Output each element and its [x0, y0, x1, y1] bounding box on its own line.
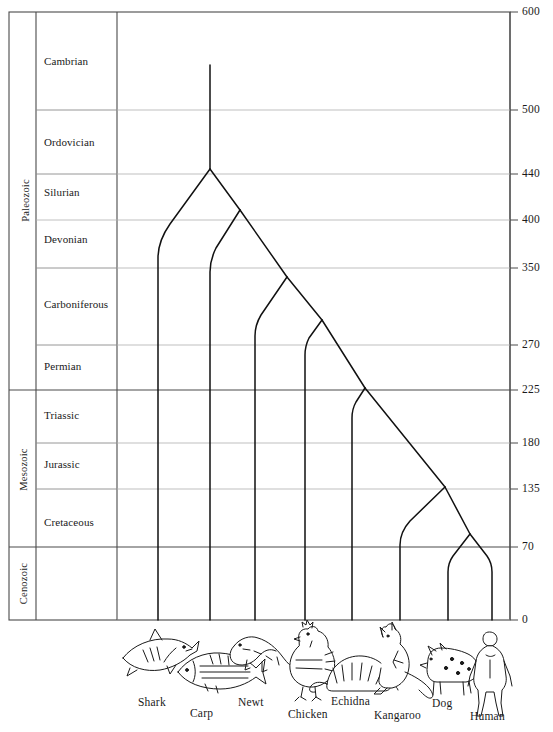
period-label-permian: Permian [44, 360, 81, 372]
taxon-illustrations [123, 620, 512, 716]
period-label-silurian: Silurian [44, 186, 80, 198]
branch-newt [255, 277, 287, 620]
branch-to-placentals [445, 487, 470, 534]
period-label-devonian: Devonian [44, 233, 88, 245]
tick-label-225: 225 [522, 383, 540, 395]
taxon-label-shark: Shark [138, 696, 166, 708]
tree-diagram-canvas [0, 0, 553, 732]
taxon-label-kangaroo: Kangaroo [374, 709, 421, 721]
tick-label-70: 70 [522, 540, 534, 552]
tick-label-600: 600 [522, 5, 540, 17]
period-label-triassic: Triassic [44, 409, 79, 421]
kangaroo-icon [374, 622, 433, 698]
period-label-jurassic: Jurassic [44, 458, 80, 470]
tick-label-440: 440 [522, 167, 540, 179]
tick-label-270: 270 [522, 338, 540, 350]
era-label-mesozoic: Mesozoic [18, 432, 29, 508]
branch-chicken [305, 320, 322, 620]
branch-carp [210, 210, 240, 620]
cladogram [158, 65, 492, 620]
tick-label-350: 350 [522, 261, 540, 273]
branch-shark [158, 169, 210, 620]
taxon-label-newt: Newt [238, 696, 264, 708]
taxon-label-human: Human [470, 710, 505, 722]
period-label-cambrian: Cambrian [44, 55, 88, 67]
tick-label-500: 500 [522, 103, 540, 115]
period-label-cretaceous: Cretaceous [44, 516, 94, 528]
tick-label-400: 400 [522, 213, 540, 225]
human-icon [468, 632, 512, 716]
phylogenetic-tree-figure: Paleozoic Mesozoic Cenozoic Cambrian Ord… [0, 0, 553, 732]
branch-echidna [352, 388, 365, 620]
tick-label-180: 180 [522, 436, 540, 448]
gridlines [117, 110, 510, 620]
taxon-label-dog: Dog [432, 697, 452, 709]
timescale-frame [9, 12, 510, 620]
tick-label-135: 135 [522, 482, 540, 494]
branch-to-bony-vertebrates [210, 169, 240, 210]
branch-kangaroo [400, 487, 445, 620]
taxon-label-carp: Carp [190, 707, 213, 719]
branch-to-therians [365, 388, 445, 487]
period-label-carboniferous: Carboniferous [44, 298, 108, 310]
taxon-label-chicken: Chicken [288, 708, 328, 720]
era-label-cenozoic: Cenozoic [18, 546, 29, 622]
branch-to-mammals [322, 320, 365, 388]
tick-label-0: 0 [522, 613, 528, 625]
period-label-ordovician: Ordovician [44, 136, 94, 148]
branch-to-amniotes [287, 277, 322, 320]
era-label-paleozoic: Paleozoic [20, 163, 31, 239]
axis-ticks [510, 12, 518, 620]
taxon-label-echidna: Echidna [331, 695, 370, 707]
